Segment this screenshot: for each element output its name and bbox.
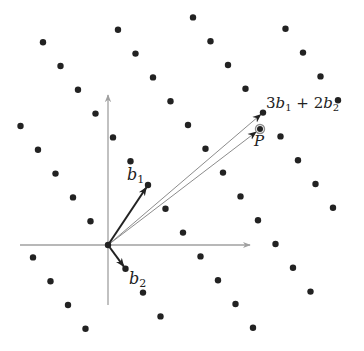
lattice-point: [17, 123, 23, 129]
lattice-point: [202, 146, 208, 152]
lattice-points: [17, 14, 341, 332]
lattice-point: [300, 49, 306, 55]
lattice-point: [272, 241, 278, 247]
lattice-point: [92, 110, 98, 116]
lattice-point: [75, 87, 81, 93]
lattice-point: [132, 50, 138, 56]
basis-vector-b1: [108, 187, 146, 245]
label-p: P: [253, 132, 265, 150]
lattice-point: [115, 27, 121, 33]
lattice-point: [57, 63, 63, 69]
label-3b1-plus-2b2: 3b1 + 2b2: [266, 94, 339, 113]
label-b1: b1: [127, 165, 144, 186]
lattice-point: [150, 74, 156, 80]
lattice-point: [317, 73, 323, 79]
lattice-point: [140, 289, 146, 295]
lattice-point: [207, 38, 213, 44]
lattice-point: [30, 254, 36, 260]
lattice-point: [307, 288, 313, 294]
basis-vector-b2: [108, 245, 124, 266]
lattice-point: [237, 193, 243, 199]
lattice-point: [295, 157, 301, 163]
lattice-point: [232, 301, 238, 307]
lattice-point: [65, 302, 71, 308]
lattice-point: [215, 277, 221, 283]
lattice-point: [162, 206, 168, 212]
lattice-point: [47, 278, 53, 284]
lattice-point: [70, 194, 76, 200]
lattice-point: [110, 134, 116, 140]
lattice-point: [277, 133, 283, 139]
lattice-point: [255, 217, 261, 223]
lattice-point: [242, 86, 248, 92]
lattice-point: [185, 122, 191, 128]
lattice-point: [167, 98, 173, 104]
lattice-point: [157, 313, 163, 319]
lattice-point: [82, 326, 88, 332]
lattice-point: [225, 62, 231, 68]
lattice-point: [87, 218, 93, 224]
lattice-point: [40, 39, 46, 45]
lattice-point: [197, 253, 203, 259]
lattice-point: [35, 147, 41, 153]
label-b2: b2: [129, 269, 146, 290]
basis-vectors: [108, 187, 146, 266]
lattice-point: [220, 169, 226, 175]
lattice-point: [312, 181, 318, 187]
lattice-point: [52, 170, 58, 176]
lattice-point: [250, 325, 256, 331]
lattice-diagram: b1 b2 3b1 + 2b2 P: [0, 0, 364, 351]
lattice-point: [127, 158, 133, 164]
lattice-point: [190, 14, 196, 20]
lattice-point: [290, 265, 296, 271]
lattice-point: [282, 26, 288, 32]
vector-to-target-p: [108, 132, 256, 245]
lattice-point: [180, 229, 186, 235]
lattice-point: [330, 205, 336, 211]
